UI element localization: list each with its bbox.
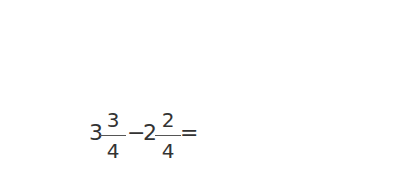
equation: 3 3 4 − 2 2 4 =: [0, 104, 399, 174]
term2-numerator: 2: [155, 108, 181, 132]
term1-denominator: 4: [100, 139, 126, 163]
number-line: [0, 0, 399, 100]
equals-sign: =: [180, 120, 198, 145]
fraction-bar: [155, 135, 181, 136]
term1-numerator: 3: [100, 108, 126, 132]
term2-denominator: 4: [155, 139, 181, 163]
fraction-bar: [100, 135, 126, 136]
